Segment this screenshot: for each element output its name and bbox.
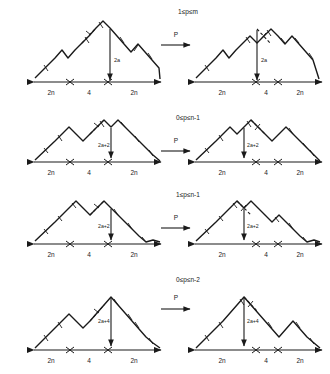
row-4-right-diagram: 2a+4 2n 4 2n bbox=[195, 297, 322, 364]
row-2-right-baseline-label-0: 2n bbox=[218, 169, 226, 176]
row-4-condition-label: 0≤p≤n-2 bbox=[176, 276, 200, 284]
row-3: 1≤p≤n-1 P 2a+2 bbox=[34, 191, 322, 258]
row-2-left-baseline-label-2: 2n bbox=[130, 169, 138, 176]
row-3-left-path-ticks bbox=[44, 203, 146, 242]
row-1-right-height-label: 2a bbox=[261, 57, 268, 63]
row-1-right-path-ticks bbox=[205, 30, 313, 71]
row-4: 0≤p≤n-2 P 2a+4 bbox=[34, 276, 322, 364]
row-4-right-baseline-label-2: 2n bbox=[296, 357, 304, 364]
row-4-right-path-ticks bbox=[205, 299, 314, 344]
row-4-right-baseline-label-0: 2n bbox=[218, 357, 226, 364]
row-4-left-height-label: 2a+4 bbox=[98, 318, 110, 324]
row-3-left-baseline-label-0: 2n bbox=[47, 251, 55, 258]
row-2-condition-label: 0≤p≤n-1 bbox=[176, 114, 200, 122]
row-3-right-baseline-label-2: 2n bbox=[296, 251, 304, 258]
row-3-condition-label: 1≤p≤n-1 bbox=[176, 191, 200, 199]
row-3-left-baseline-label-1: 4 bbox=[87, 251, 91, 258]
lattice-path-transformation-figure: 1≤p≤m P 2a bbox=[0, 0, 330, 374]
row-2-left-baseline-label-1: 4 bbox=[87, 169, 91, 176]
row-2-map-label: P bbox=[174, 137, 178, 144]
row-1-left-diagram: 2a 2n 4 2n bbox=[34, 21, 161, 96]
row-2-right-baseline-label-2: 2n bbox=[296, 169, 304, 176]
row-2-left-baseline-label-0: 2n bbox=[47, 169, 55, 176]
row-4-left-baseline-label-1: 4 bbox=[87, 357, 91, 364]
row-1-condition-label: 1≤p≤m bbox=[178, 8, 198, 16]
figure-canvas: 1≤p≤m P 2a bbox=[0, 0, 330, 374]
row-1-right-baseline-label-1: 4 bbox=[264, 89, 268, 96]
row-3-right-height-label: 2a+2 bbox=[247, 223, 259, 229]
row-1-right-baseline-label-2: 2n bbox=[296, 89, 304, 96]
row-2-left-diagram: 2a+2 2n 4 2n bbox=[34, 120, 161, 176]
row-1-left-baseline-label-0: 2n bbox=[47, 89, 55, 96]
row-2-right-height-label: 2a+2 bbox=[247, 142, 259, 148]
row-3-map-label: P bbox=[174, 214, 178, 221]
row-4-right-baseline-label-1: 4 bbox=[264, 357, 268, 364]
row-3-left-diagram: 2a+2 2n 4 2n bbox=[34, 201, 161, 258]
row-2-left-height-label: 2a+2 bbox=[98, 142, 110, 148]
row-1-right-diagram: 2a 2n 4 2n bbox=[195, 29, 322, 96]
row-1-left-height-label: 2a bbox=[114, 57, 121, 63]
row-3-left-height-label: 2a+2 bbox=[98, 223, 110, 229]
row-1-left-dashed-tick bbox=[86, 31, 91, 35]
row-3-right-baseline-label-0: 2n bbox=[218, 251, 226, 258]
row-4-right-height-label: 2a+4 bbox=[247, 318, 259, 324]
row-1-left-path bbox=[35, 21, 160, 79]
row-1: 1≤p≤m P 2a bbox=[34, 8, 322, 96]
row-3-left-baseline-label-2: 2n bbox=[130, 251, 138, 258]
row-1-right-baseline-label-0: 2n bbox=[218, 89, 226, 96]
row-4-left-baseline-label-2: 2n bbox=[130, 357, 138, 364]
row-2-right-baseline-label-1: 4 bbox=[264, 169, 268, 176]
row-2-right-diagram: 2a+2 2n 4 2n bbox=[195, 120, 322, 176]
row-1-left-baseline-label-1: 4 bbox=[87, 89, 91, 96]
row-3-right-path bbox=[196, 201, 320, 242]
row-2: 0≤p≤n-1 P 2a+2 bbox=[34, 114, 322, 176]
row-3-right-baseline-label-1: 4 bbox=[264, 251, 268, 258]
row-3-right-diagram: 2a+2 2n 4 2n bbox=[195, 201, 322, 258]
row-1-left-baseline-label-2: 2n bbox=[130, 89, 138, 96]
row-1-map-label: P bbox=[174, 31, 178, 38]
row-4-left-baseline-label-0: 2n bbox=[47, 357, 55, 364]
row-4-left-diagram: 2a+4 2n 4 2n bbox=[34, 297, 161, 364]
row-4-map-label: P bbox=[174, 294, 178, 301]
